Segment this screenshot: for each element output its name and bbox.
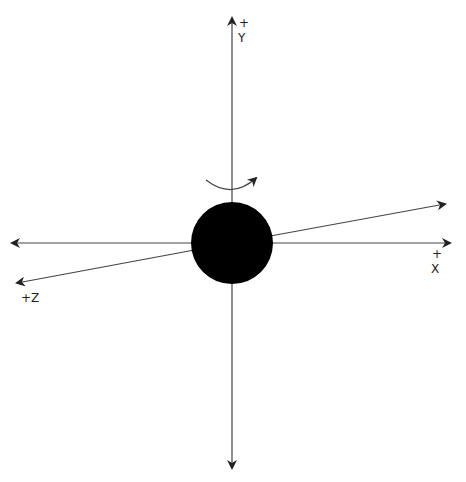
z-axis-label: +Z [21,291,39,305]
axes-diagram: + Y + X +Z [0,0,466,482]
center-sphere [191,202,273,284]
x-axis-sign: + [432,247,442,261]
x-axis-label: X [431,262,439,276]
y-axis-label: Y [237,31,246,45]
y-axis-sign: + [239,16,249,30]
rotation-arrow-icon [206,178,256,190]
